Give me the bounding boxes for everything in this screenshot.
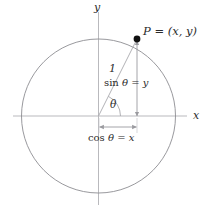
sine-identity-label: sin θ = y <box>104 78 148 88</box>
radius-length-label: 1 <box>109 63 116 74</box>
x-axis-label: x <box>193 110 199 121</box>
unit-circle-diagram: y x P = (x, y) 1 θ sin θ = y cos θ = x <box>0 0 210 210</box>
angle-theta-label: θ <box>110 99 116 110</box>
y-axis-label: y <box>94 2 100 13</box>
cosine-function-name: cos <box>88 132 105 143</box>
sine-identity-rest: θ = y <box>119 77 149 88</box>
point-p-marker <box>134 36 141 43</box>
sine-function-name: sin <box>104 77 119 88</box>
cosine-identity-rest: θ = x <box>105 132 135 143</box>
cosine-identity-label: cos θ = x <box>88 133 134 143</box>
point-p-label: P = (x, y) <box>143 26 197 38</box>
